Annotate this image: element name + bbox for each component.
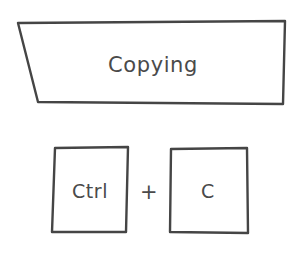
plus-separator-icon: + [140, 180, 158, 204]
key-label-ctrl: Ctrl [72, 180, 108, 202]
sketch-canvas: Copying Ctrl + C [0, 0, 300, 261]
key-label-c: C [201, 180, 215, 202]
copying-banner-label: Copying [108, 53, 198, 77]
